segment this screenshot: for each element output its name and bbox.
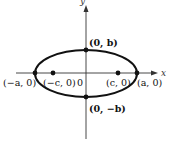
y-axis-arrow-icon <box>84 5 89 12</box>
left-vertex-point <box>33 71 38 76</box>
x-axis-arrow-icon <box>151 71 158 76</box>
right-vertex-point <box>135 71 140 76</box>
bottom-vertex-point <box>84 95 89 100</box>
right-focus-label: (c, 0) <box>106 77 131 88</box>
left-vertex-label: (−a, 0) <box>3 77 36 88</box>
top-vertex-point <box>84 48 89 53</box>
left-focus-point <box>51 71 56 76</box>
right-vertex-label: (a, 0) <box>137 77 162 88</box>
left-focus-label: (−c, 0) <box>43 77 76 88</box>
y-axis-label: y <box>79 0 86 6</box>
top-vertex-label: (0, b) <box>89 37 118 49</box>
y-axis <box>84 5 89 139</box>
bottom-vertex-label: (0, −b) <box>89 103 126 115</box>
origin-label: 0 <box>77 77 83 88</box>
right-focus-point <box>116 71 121 76</box>
ellipse-diagram: x y (0, b) (0, −b) (−a, 0) (−c, 0) 0 (c,… <box>0 0 170 149</box>
